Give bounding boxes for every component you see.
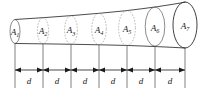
dimension-leader-lines [15,44,185,89]
area-label-a6: A6 [150,23,161,34]
area-label-a4: A4 [94,25,104,36]
dimension-label-2: d [55,76,60,86]
area-label-a3: A3 [66,25,76,36]
arrow-head-left-6 [179,67,185,72]
dimension-label-3: d [83,76,88,86]
arrow-head-left-2 [65,67,71,72]
area-label-a1: A1 [10,27,20,38]
area-labels: A1 A2 A3 A4 A5 A6 A7 [10,21,191,38]
area-label-a7: A7 [180,21,191,32]
dimension-arrows [15,67,185,72]
cross-section-ellipses [10,2,197,48]
area-label-a2: A2 [38,26,48,37]
dimension-labels: d d d d d d [27,76,173,86]
horn-cross-section-figure: A1 A2 A3 A4 A5 A6 A7 [0,0,206,91]
area-label-a5: A5 [122,24,132,35]
arrow-head-right-4 [99,67,105,72]
dimension-label-6: d [168,76,173,86]
arrow-head-right-1 [15,67,21,72]
dimension-label-5: d [139,76,144,86]
arrow-head-right-6 [155,67,161,72]
arrow-head-left-4 [121,67,127,72]
arrow-head-right-2 [43,67,49,72]
arrow-head-right-3 [71,67,77,72]
arrow-head-right-5 [127,67,133,72]
arrow-head-left-5 [149,67,155,72]
horn-top-profile [15,2,185,19]
figure-canvas: A1 A2 A3 A4 A5 A6 A7 [0,0,206,91]
dimension-label-4: d [111,76,116,86]
arrow-head-left-1 [37,67,43,72]
arrow-head-left-3 [93,67,99,72]
dimension-label-1: d [27,76,32,86]
